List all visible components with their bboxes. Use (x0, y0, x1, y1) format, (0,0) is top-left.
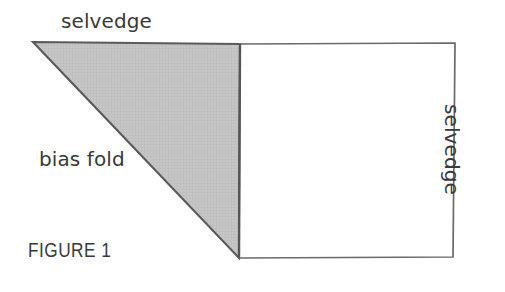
figure-caption: FIGURE 1 (28, 239, 111, 260)
label-selvedge-right: selvedge (442, 104, 462, 195)
fold-line (239, 44, 240, 258)
figure-illustration: selvedge bias fold selvedge FIGURE 1 (0, 0, 505, 292)
label-bias-fold: bias fold (39, 149, 125, 169)
label-selvedge-top: selvedge (61, 11, 152, 31)
fabric-rectangle (239, 43, 455, 258)
